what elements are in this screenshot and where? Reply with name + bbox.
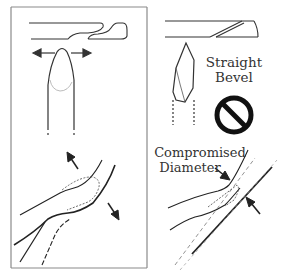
arrow-down-right-icon xyxy=(108,203,119,220)
double-arrow-icon xyxy=(33,49,91,57)
compromised-label-line2: Diameter xyxy=(159,160,221,175)
arrow-up-left-icon xyxy=(67,152,78,169)
straight-label-line2: Bevel xyxy=(215,69,253,85)
diagram-canvas: Straight Bevel xyxy=(0,0,286,276)
panel-bottom-left xyxy=(14,152,119,265)
lancet-tip xyxy=(48,49,74,136)
left-frame xyxy=(11,7,147,268)
suture-line xyxy=(62,177,99,210)
prohibited-icon xyxy=(217,98,251,132)
sharp-lancet-tip xyxy=(173,43,194,125)
arrow-up-left-icon xyxy=(246,197,260,214)
panel-top-left xyxy=(29,23,127,135)
straight-label-line1: Straight xyxy=(206,54,263,70)
straight-bevel-needle xyxy=(165,21,258,37)
curved-bevel-needle xyxy=(29,23,127,39)
compromised-label-line1: Compromised xyxy=(154,145,246,160)
vessel-walls xyxy=(14,160,115,265)
